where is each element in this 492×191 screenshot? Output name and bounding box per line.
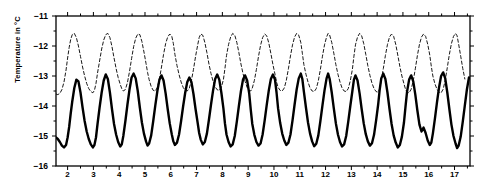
series-line-solid-series <box>56 72 469 148</box>
chart-figure: Temperature in °C −11−12−13−14−15−16 234… <box>0 0 492 191</box>
plot-area <box>0 0 492 191</box>
series-line-dashed-series <box>56 33 465 94</box>
